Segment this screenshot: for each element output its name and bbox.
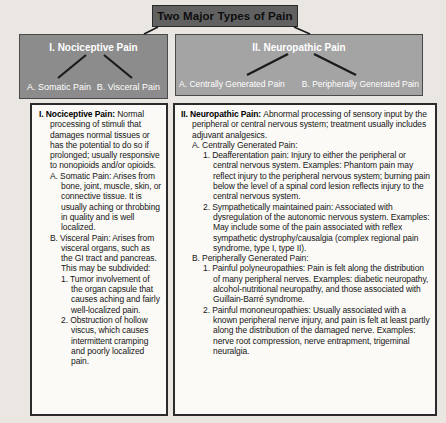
neuropathic-header-title: II. Neuropathic Pain bbox=[176, 42, 422, 53]
visceral-pain-label: B. Visceral Pain bbox=[97, 82, 160, 92]
outline-text: Peripherally Generated Pain: bbox=[202, 253, 308, 263]
outline-item: 2. Painful mononeuropathies: Usually ass… bbox=[181, 305, 431, 356]
outline-text: Deafferentation pain: Injury to either t… bbox=[212, 150, 430, 201]
outline-marker: A. bbox=[50, 171, 60, 181]
outline-text: Centrally Generated Pain: bbox=[202, 140, 297, 150]
nociceptive-detail-box: I. Nociceptive Pain: Normal processing o… bbox=[30, 103, 168, 416]
outline-text: Sympathetically maintained pain: Associa… bbox=[212, 202, 429, 253]
nociceptive-branch-row: A. Somatic Pain B. Visceral Pain bbox=[20, 82, 167, 92]
outline-marker: A. bbox=[192, 140, 202, 150]
outline-item: 1. Painful polyneuropathies: Pain is fel… bbox=[181, 263, 431, 304]
outline-lead: Nociceptive Pain: bbox=[46, 109, 117, 119]
outline-marker: 2. bbox=[61, 315, 70, 325]
outline-item: 2. Obstruction of hollow viscus, which c… bbox=[39, 315, 163, 366]
diagram-title: Two Major Types of Pain bbox=[157, 10, 292, 22]
outline-text: Somatic Pain: Arises from bone, joint, m… bbox=[60, 171, 161, 232]
outline-item: A. Centrally Generated Pain: bbox=[181, 140, 431, 150]
outline-item: B. Peripherally Generated Pain: bbox=[181, 253, 431, 263]
outline-text: Tumor involvement of the organ capsule t… bbox=[70, 274, 160, 315]
outline-marker: 1. bbox=[203, 150, 212, 160]
outline-item: B. Visceral Pain: Arises from visceral o… bbox=[39, 233, 163, 274]
outline-text: Obstruction of hollow viscus, which caus… bbox=[70, 315, 148, 366]
outline-text: Painful polyneuropathies: Pain is felt a… bbox=[212, 263, 428, 304]
outline-marker: 1. bbox=[203, 263, 212, 273]
outline-marker: 2. bbox=[203, 202, 212, 212]
title-box: Two Major Types of Pain bbox=[152, 5, 298, 27]
outline-marker: 2. bbox=[203, 305, 212, 315]
outline-item: 1. Deafferentation pain: Injury to eithe… bbox=[181, 150, 431, 201]
centrally-generated-pain-label: A. Centrally Generated Pain bbox=[179, 79, 285, 89]
outline-item: II. Neuropathic Pain: Abnormal processin… bbox=[181, 109, 431, 140]
title-to-nociceptive-line bbox=[144, 27, 158, 34]
outline-item: I. Nociceptive Pain: Normal processing o… bbox=[39, 109, 163, 171]
outline-marker: I. bbox=[39, 109, 46, 119]
somatic-pain-label: A. Somatic Pain bbox=[27, 82, 91, 92]
outline-item: 2. Sympathetically maintained pain: Asso… bbox=[181, 202, 431, 253]
outline-marker: B. bbox=[50, 233, 60, 243]
pain-types-diagram: Two Major Types of Pain I. Nociceptive P… bbox=[0, 0, 446, 423]
neuropathic-header-box: II. Neuropathic Pain A. Centrally Genera… bbox=[175, 34, 423, 96]
outline-item: 1. Tumor involvement of the organ capsul… bbox=[39, 274, 163, 315]
outline-item: A. Somatic Pain: Arises from bone, joint… bbox=[39, 171, 163, 233]
outline-text: Painful mononeuropathies: Usually associ… bbox=[212, 305, 429, 356]
outline-lead: Neuropathic Pain: bbox=[190, 109, 263, 119]
neuropathic-branch-row: A. Centrally Generated Pain B. Periphera… bbox=[176, 79, 422, 89]
outline-marker: II. bbox=[181, 109, 190, 119]
title-to-neuropathic-line bbox=[294, 27, 310, 34]
nociceptive-header-box: I. Nociceptive Pain A. Somatic Pain B. V… bbox=[19, 34, 168, 99]
outline-marker: 1. bbox=[61, 274, 70, 284]
outline-marker: B. bbox=[192, 253, 202, 263]
nociceptive-header-title: I. Nociceptive Pain bbox=[20, 42, 167, 53]
outline-text: Visceral Pain: Arises from visceral orga… bbox=[60, 233, 157, 274]
peripherally-generated-pain-label: B. Peripherally Generated Pain bbox=[302, 79, 419, 89]
neuropathic-detail-box: II. Neuropathic Pain: Abnormal processin… bbox=[173, 103, 437, 416]
